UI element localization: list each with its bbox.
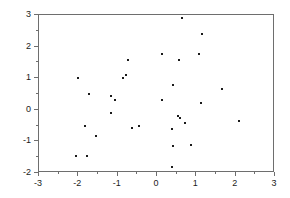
x-axis-tick xyxy=(195,172,196,176)
y-axis-minor-tick xyxy=(36,156,38,157)
data-point xyxy=(201,33,203,35)
scatter-plot-figure: -3-2-10123-2-10123 xyxy=(0,0,290,198)
y-axis-tick-label: -2 xyxy=(8,167,31,177)
x-axis-tick xyxy=(77,172,78,176)
data-point xyxy=(181,17,183,19)
y-axis-tick xyxy=(34,172,38,173)
x-axis-tick-label: -3 xyxy=(34,178,42,188)
data-point xyxy=(200,102,202,104)
data-point xyxy=(131,127,133,129)
data-point xyxy=(221,88,223,90)
data-point xyxy=(171,166,173,168)
data-point xyxy=(114,99,116,101)
y-axis-tick-label: 1 xyxy=(8,72,31,82)
x-axis-tick xyxy=(38,172,39,176)
x-axis-tick xyxy=(156,172,157,176)
x-axis-tick xyxy=(117,172,118,176)
y-axis-tick xyxy=(34,46,38,47)
data-point xyxy=(127,59,129,61)
data-point xyxy=(125,74,127,76)
y-axis-tick-label: 0 xyxy=(8,104,31,114)
x-axis-minor-tick xyxy=(97,172,98,174)
plot-frame xyxy=(38,14,274,172)
data-point xyxy=(177,115,179,117)
data-point xyxy=(84,125,86,127)
y-axis-tick-label: 2 xyxy=(8,41,31,51)
x-axis-minor-tick xyxy=(176,172,177,174)
data-point xyxy=(86,155,88,157)
x-axis-tick-label: 3 xyxy=(271,178,276,188)
data-point xyxy=(75,155,77,157)
x-axis-tick-label: -2 xyxy=(73,178,81,188)
x-axis-tick xyxy=(235,172,236,176)
x-axis-minor-tick xyxy=(136,172,137,174)
data-point xyxy=(77,77,79,79)
data-point xyxy=(161,99,163,101)
data-point xyxy=(178,59,180,61)
data-point xyxy=(172,84,174,86)
data-points-layer xyxy=(39,15,273,171)
data-point xyxy=(238,120,240,122)
y-axis-minor-tick xyxy=(36,61,38,62)
data-point xyxy=(122,77,124,79)
data-point xyxy=(171,128,173,130)
data-point xyxy=(138,125,140,127)
y-axis-minor-tick xyxy=(36,125,38,126)
y-axis-minor-tick xyxy=(36,93,38,94)
x-axis-minor-tick xyxy=(254,172,255,174)
x-axis-tick-label: 2 xyxy=(232,178,237,188)
data-point xyxy=(179,117,181,119)
x-axis-tick xyxy=(274,172,275,176)
x-axis-tick-label: 1 xyxy=(193,178,198,188)
y-axis-tick xyxy=(34,77,38,78)
y-axis-tick xyxy=(34,140,38,141)
x-axis-minor-tick xyxy=(215,172,216,174)
x-axis-tick-label: 0 xyxy=(153,178,158,188)
data-point xyxy=(110,112,112,114)
y-axis-minor-tick xyxy=(36,30,38,31)
data-point xyxy=(198,53,200,55)
y-axis-tick-label: 3 xyxy=(8,9,31,19)
data-point xyxy=(190,144,192,146)
data-point xyxy=(161,53,163,55)
data-point xyxy=(172,145,174,147)
x-axis-minor-tick xyxy=(58,172,59,174)
data-point xyxy=(88,93,90,95)
data-point xyxy=(110,95,112,97)
y-axis-tick xyxy=(34,14,38,15)
y-axis-tick-label: -1 xyxy=(8,135,31,145)
data-point xyxy=(95,135,97,137)
y-axis-tick xyxy=(34,109,38,110)
data-point xyxy=(184,122,186,124)
x-axis-tick-label: -1 xyxy=(113,178,121,188)
